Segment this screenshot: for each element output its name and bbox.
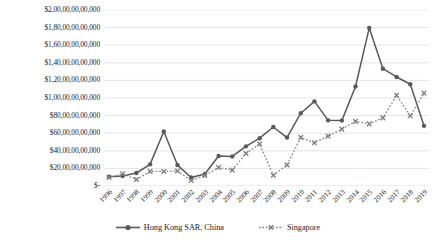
data-point-marker [175, 169, 180, 174]
data-point-marker [216, 154, 220, 158]
y-axis-tick-label: $1,40,00,00,00,000 [45, 59, 100, 66]
data-point-marker [408, 82, 412, 86]
chart-legend: Hong Kong SAR, China Singapore [0, 216, 435, 238]
plot-area [104, 10, 429, 186]
data-point-marker [175, 163, 179, 167]
data-point-marker [422, 124, 426, 128]
data-point-marker [161, 169, 166, 174]
legend-label-singapore: Singapore [287, 223, 320, 232]
data-point-marker [326, 118, 330, 122]
solid-line-circle-marker-icon [115, 223, 141, 232]
data-point-marker [381, 116, 386, 121]
data-point-marker [257, 142, 262, 147]
data-point-marker [271, 125, 275, 129]
data-point-marker [230, 154, 234, 158]
data-point-marker [271, 173, 276, 178]
data-point-marker [244, 151, 249, 156]
series-line [109, 28, 424, 177]
legend-label-hong-kong: Hong Kong SAR, China [144, 223, 224, 232]
data-point-marker [148, 169, 153, 174]
data-point-marker [394, 93, 399, 98]
data-point-marker [326, 134, 331, 139]
data-point-marker [244, 144, 248, 148]
data-point-marker [299, 111, 303, 115]
y-axis-tick-label: $1,60,00,00,00,000 [45, 41, 100, 48]
legend-item-singapore[interactable]: Singapore [258, 223, 320, 232]
y-axis-tick-label: $2,00,00,00,00,000 [45, 6, 100, 13]
series-line [109, 93, 424, 180]
data-point-marker [134, 171, 138, 175]
data-point-marker [394, 75, 398, 79]
data-point-marker [353, 84, 357, 88]
data-point-marker [162, 129, 166, 133]
dotted-line-cross-marker-icon [258, 223, 284, 232]
y-axis-tick-label: $40,00,00,00,000 [50, 147, 100, 154]
data-point-marker [381, 67, 385, 71]
data-point-marker [257, 136, 261, 140]
y-axis-tick-label: $60,00,00,00,000 [50, 129, 100, 136]
data-point-marker [367, 122, 372, 127]
y-axis-tick-label: $80,00,00,00,000 [50, 112, 100, 119]
data-point-marker [285, 135, 289, 139]
data-point-marker [340, 127, 345, 132]
data-series-layer [107, 26, 427, 183]
y-axis-tick-label: $- [94, 182, 100, 189]
data-point-marker [216, 165, 221, 170]
line-chart: $-$20,00,00,00,000$40,00,00,00,000$60,00… [0, 0, 435, 240]
legend-item-hong-kong[interactable]: Hong Kong SAR, China [115, 223, 224, 232]
data-point-marker [134, 177, 139, 182]
plot-svg [104, 10, 429, 186]
y-axis-tick-label: $1,00,00,00,00,000 [45, 94, 100, 101]
data-point-marker [367, 26, 371, 30]
data-point-marker [312, 99, 316, 103]
data-point-marker [422, 91, 427, 96]
y-axis-tick-label: $1,80,00,00,00,000 [45, 24, 100, 31]
data-point-marker [340, 118, 344, 122]
data-point-marker [285, 163, 290, 168]
y-axis: $-$20,00,00,00,000$40,00,00,00,000$60,00… [0, 0, 100, 240]
data-point-marker [298, 135, 303, 140]
data-point-marker [148, 162, 152, 166]
data-point-marker [353, 119, 358, 124]
y-axis-tick-label: $1,20,00,00,00,000 [45, 77, 100, 84]
y-axis-tick-label: $20,00,00,00,000 [50, 165, 100, 172]
